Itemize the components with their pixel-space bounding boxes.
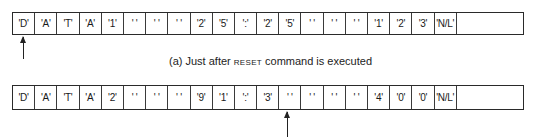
buffer-b-cell: ' ' (324, 86, 346, 109)
buffer-b-cell: '4' (368, 86, 390, 109)
buffer-a-cell: '2' (390, 13, 412, 34)
buffer-b-cell: 'A' (80, 86, 102, 109)
buffer-a-cell: ' ' (124, 13, 146, 34)
buffer-b-cell: '0' (412, 86, 434, 109)
buffer-b-empty-cell (457, 86, 523, 109)
buffer-a-cell: '5' (279, 13, 301, 34)
buffer-a-cell: '1' (102, 13, 124, 34)
buffer-b-cell: ' ' (346, 86, 368, 109)
buffer-a-cell: 'D' (13, 13, 35, 34)
buffer-a-cell: ' ' (324, 13, 346, 34)
buffer-b: 'D' 'A' 'T' 'A' '2' ' ' ' ' ' ' '9' '1' … (12, 85, 524, 110)
buffer-a-cell: ' ' (301, 13, 323, 34)
buffer-a-cell: '2' (191, 13, 213, 34)
buffer-b-cell: ' ' (301, 86, 323, 109)
buffer-a-cell: ':' (235, 13, 257, 34)
buffer-b-cell: ' ' (146, 86, 168, 109)
buffer-a-cell: 'A' (35, 13, 57, 34)
buffer-b-cell: 'N/L' (435, 86, 457, 109)
buffer-b-cell: ' ' (124, 86, 146, 109)
buffer-a: 'D' 'A' 'T' 'A' '1' ' ' ' ' ' ' '2' '5' … (12, 12, 524, 35)
caption-a-prefix: (a) Just after (169, 55, 234, 67)
buffer-a-empty-cell (457, 13, 523, 34)
buffer-b-cell: '3' (257, 86, 279, 109)
buffer-b-cell: '9' (191, 86, 213, 109)
buffer-b-cell: '0' (390, 86, 412, 109)
buffer-a-cell: '5' (213, 13, 235, 34)
buffer-a-cell: 'T' (57, 13, 79, 34)
buffer-a-cell: ' ' (146, 13, 168, 34)
buffer-b-cell: 'D' (13, 86, 35, 109)
buffer-a-cell: ' ' (346, 13, 368, 34)
buffer-a-cell: 'A' (80, 13, 102, 34)
buffer-b-cell: ' ' (279, 86, 301, 109)
caption-a-command: RESET (234, 58, 262, 67)
buffer-a-cell: ' ' (168, 13, 190, 34)
buffer-a-cell: 'N/L' (435, 13, 457, 34)
caption-a: (a) Just after RESET command is executed (0, 55, 541, 67)
buffer-a-cell: '2' (257, 13, 279, 34)
buffer-a-cell: '3' (412, 13, 434, 34)
buffer-b-cell: '1' (213, 86, 235, 109)
buffer-b-cell: '2' (102, 86, 124, 109)
buffer-b-cell: 'A' (35, 86, 57, 109)
caption-a-suffix: command is executed (262, 55, 372, 67)
buffer-a-cell: '1' (368, 13, 390, 34)
buffer-b-cell: 'T' (57, 86, 79, 109)
buffer-b-cell: ':' (235, 86, 257, 109)
pointer-arrow-b-icon (287, 112, 288, 137)
buffer-b-cell: ' ' (168, 86, 190, 109)
